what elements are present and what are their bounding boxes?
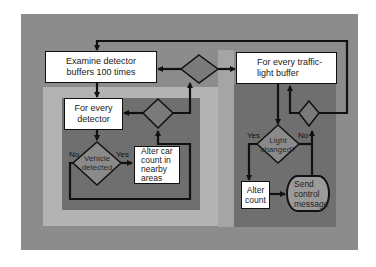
examine-line2: buffers 100 times <box>66 67 136 78</box>
vehicle-yes-label: Yes <box>116 150 129 159</box>
vehicle-detected-label: Vehicle detected <box>77 154 117 172</box>
every-detector-line1: For every <box>74 103 112 114</box>
alter-car-line4: areas <box>141 174 173 183</box>
send-control-terminal: Send control message <box>286 175 330 212</box>
every-detector-line2: detector <box>74 114 112 125</box>
send-line3: message <box>294 199 329 209</box>
light-yes-label: Yes <box>247 131 260 140</box>
alter-count-line1: Alter <box>245 185 266 195</box>
alter-count-box: Alter count <box>241 181 270 209</box>
loop-decision-top-icon <box>181 55 218 83</box>
light-no-label: No <box>298 131 308 140</box>
light-line2: changed? <box>259 145 297 154</box>
alter-car-count-box: Alter car count in nearby areas <box>134 146 180 184</box>
every-traffic-light-box: For every traffic- light buffer <box>236 52 337 84</box>
loop-decision-traffic-icon <box>299 101 319 126</box>
loop-decision-detector-icon <box>143 99 173 128</box>
examine-detector-box: Examine detector buffers 100 times <box>45 51 157 83</box>
light-line1: Light <box>259 136 297 145</box>
traffic-line2: light buffer <box>257 68 322 79</box>
examine-line1: Examine detector <box>66 56 136 67</box>
send-line1: Send <box>294 179 314 189</box>
vehicle-line1: Vehicle <box>77 154 117 163</box>
vehicle-no-label: No <box>69 150 79 159</box>
every-detector-box: For every detector <box>64 98 123 130</box>
vehicle-line2: detected <box>77 163 117 172</box>
light-changed-label: Light changed? <box>259 136 297 154</box>
alter-count-line2: count <box>245 195 266 205</box>
flow-connectors <box>0 0 376 267</box>
traffic-line1: For every traffic- <box>257 57 322 68</box>
send-line2: control <box>294 189 320 199</box>
